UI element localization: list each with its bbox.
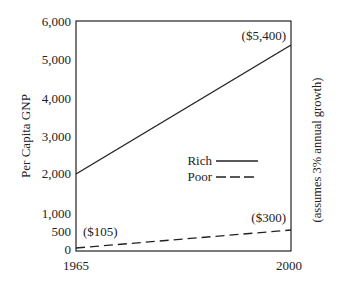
legend: Rich Poor bbox=[187, 153, 258, 184]
x-tick-1965: 1965 bbox=[63, 258, 89, 273]
y-tick-1000: 1,000 bbox=[42, 206, 71, 221]
y-tick-500: 500 bbox=[52, 224, 72, 239]
legend-poor-label: Poor bbox=[187, 169, 212, 184]
annotation-poor-start: ($105) bbox=[83, 224, 118, 239]
y-tick-6000: 6,000 bbox=[42, 14, 71, 29]
y-tick-0: 0 bbox=[65, 242, 72, 257]
y-tick-3000: 3,000 bbox=[42, 129, 71, 144]
chart: 6,000 5,000 4,000 3,000 2,000 1,000 500 … bbox=[0, 0, 340, 285]
annotation-rich-end: ($5,400) bbox=[242, 28, 286, 43]
annotation-poor-end: ($300) bbox=[251, 210, 286, 225]
legend-rich-label: Rich bbox=[187, 153, 212, 168]
right-note-label: (assumes 3% annual growth) bbox=[310, 78, 324, 223]
y-tick-5000: 5,000 bbox=[42, 52, 71, 67]
y-axis-label: Per Capita GNP bbox=[18, 94, 33, 178]
x-tick-2000: 2000 bbox=[276, 258, 302, 273]
y-tick-2000: 2,000 bbox=[42, 166, 71, 181]
y-tick-4000: 4,000 bbox=[42, 91, 71, 106]
rich-series-line bbox=[76, 45, 291, 174]
